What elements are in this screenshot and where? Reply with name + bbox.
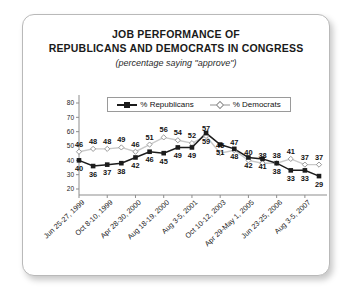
data-point-republicans: [288, 168, 293, 173]
y-axis-tick-label: 40: [67, 157, 75, 164]
data-point-republicans: [161, 151, 166, 156]
data-point-democrats: [161, 135, 166, 140]
data-point-democrats: [119, 145, 124, 150]
x-axis-tick-label: Apr 29-May 1, 2005: [203, 198, 256, 248]
data-label-republicans: 59: [202, 137, 210, 146]
data-point-republicans: [133, 155, 138, 160]
data-label-republicans: 37: [103, 168, 111, 177]
data-label-democrats: 57: [202, 124, 210, 133]
data-point-republicans: [147, 149, 152, 154]
data-point-democrats: [76, 149, 81, 154]
data-point-democrats: [316, 162, 321, 167]
data-label-republicans: 38: [117, 167, 125, 176]
chart-plot-area: 20304050607080Jun 25-27, 1999Oct 8-10, 1…: [23, 15, 330, 276]
chart-figure-frame: JOB PERFORMANCE OF REPUBLICANS AND DEMOC…: [22, 14, 330, 276]
data-point-republicans: [190, 145, 195, 150]
data-label-republicans: 48: [230, 152, 238, 161]
data-point-democrats: [91, 146, 96, 151]
data-label-republicans: 33: [301, 174, 309, 183]
data-point-republicans: [176, 145, 181, 150]
data-label-democrats: 56: [160, 125, 168, 134]
series-line-republicans: [79, 133, 319, 176]
data-label-democrats: 41: [287, 147, 295, 156]
data-label-republicans: 41: [258, 162, 266, 171]
data-label-republicans: 49: [174, 151, 182, 160]
data-point-democrats: [302, 162, 307, 167]
data-point-republicans: [91, 164, 96, 169]
y-axis-tick-label: 60: [67, 128, 75, 135]
data-label-democrats: 47: [230, 138, 238, 147]
data-label-democrats: 40: [244, 148, 252, 157]
data-label-democrats: 54: [174, 128, 183, 137]
data-point-republicans: [119, 161, 124, 166]
data-label-republicans: 38: [273, 167, 281, 176]
data-label-democrats: 46: [75, 140, 83, 149]
data-label-democrats: 37: [315, 153, 323, 162]
data-label-republicans: 42: [131, 161, 139, 170]
data-label-democrats: 49: [117, 135, 125, 144]
data-point-democrats: [288, 156, 293, 161]
data-label-democrats: 51: [145, 133, 153, 142]
data-label-republicans: 33: [287, 174, 295, 183]
data-label-democrats: 52: [188, 131, 196, 140]
data-point-republicans: [274, 161, 279, 166]
data-label-republicans: 42: [244, 161, 252, 170]
data-point-republicans: [303, 168, 308, 173]
data-label-democrats: 46: [131, 140, 139, 149]
data-label-republicans: 46: [145, 155, 153, 164]
data-point-democrats: [147, 142, 152, 147]
data-label-democrats: 48: [89, 137, 97, 146]
y-axis-tick-label: 50: [67, 142, 75, 149]
data-label-republicans: 49: [188, 151, 196, 160]
data-label-democrats: 48: [103, 137, 111, 146]
y-axis-tick-label: 80: [67, 99, 75, 106]
data-label-republicans: 51: [216, 148, 224, 157]
data-point-republicans: [105, 162, 110, 167]
data-label-republicans: 36: [89, 170, 97, 179]
data-point-republicans: [77, 158, 82, 163]
data-point-democrats: [105, 146, 110, 151]
y-axis-tick-label: 30: [67, 171, 75, 178]
data-point-democrats: [133, 149, 138, 154]
data-label-republicans: 40: [75, 164, 83, 173]
data-label-democrats: 38: [273, 151, 281, 160]
data-label-democrats: 38: [258, 151, 266, 160]
data-label-republicans: 45: [160, 157, 168, 166]
data-label-democrats: 37: [301, 153, 309, 162]
y-axis-tick-label: 20: [67, 185, 75, 192]
data-point-republicans: [317, 174, 322, 179]
data-point-democrats: [175, 138, 180, 143]
y-axis-tick-label: 70: [67, 114, 75, 121]
data-label-republicans: 29: [315, 180, 323, 189]
